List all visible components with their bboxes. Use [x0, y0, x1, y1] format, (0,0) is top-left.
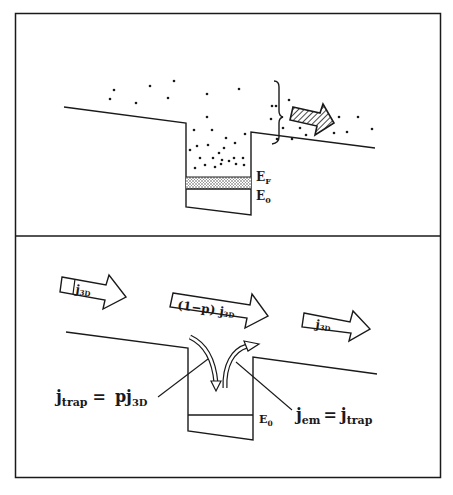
trap-pointer-line	[158, 359, 208, 397]
flux-arrow-right: j3D	[302, 311, 370, 341]
trap-equation: jtrap=pj3D	[54, 387, 148, 409]
emission-curved-arrow	[225, 341, 259, 388]
fermi-level-label: EF	[256, 170, 271, 186]
emission-equation: jem=jtrap	[294, 405, 373, 427]
ground-level-label-bottom: E0	[259, 413, 273, 428]
flux-arrow-middle: (1−p) j3D	[170, 293, 268, 328]
top-panel: EF E0	[64, 80, 375, 215]
electron-dots	[109, 80, 374, 170]
quantum-well-diagram: EF E0	[0, 0, 453, 495]
flux-left-label: j3D	[74, 282, 92, 298]
flux-arrow-left: j3D	[60, 275, 126, 309]
hatched-transport-arrow	[290, 104, 334, 135]
flux-right-label: j3D	[314, 317, 332, 333]
trap-curved-arrow	[190, 337, 221, 391]
bottom-panel: E0 j3D (1−p) j3D j3D	[54, 275, 377, 440]
ground-level-label-top: E0	[256, 189, 271, 205]
fermi-filled-states	[186, 177, 251, 189]
emission-pointer-line	[236, 362, 292, 410]
